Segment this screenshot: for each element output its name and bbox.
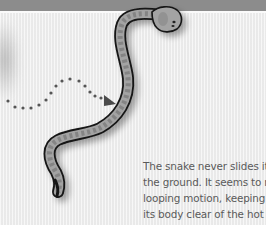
caption-line: the ground. It seems to move in a	[143, 174, 266, 190]
caption-line: The snake never slides its body over	[143, 158, 266, 174]
dotted-arrow-icon	[6, 77, 116, 109]
caption-line: looping motion, keeping much of	[143, 190, 266, 206]
caption-line: its body clear of the hot sand.	[143, 206, 266, 222]
caption-text: The snake never slides its body over the…	[143, 158, 266, 222]
